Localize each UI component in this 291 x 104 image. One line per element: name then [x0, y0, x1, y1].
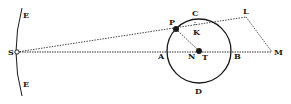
label-L: L: [243, 6, 249, 16]
label-A: A: [157, 51, 165, 61]
label-P: P: [169, 17, 175, 27]
label-S: S: [8, 47, 14, 57]
body-S: [15, 50, 19, 54]
label-B: B: [234, 51, 241, 61]
diagram: E E S P C K L A N T B M D: [0, 0, 291, 104]
line-LM: [246, 17, 272, 52]
label-E-bottom: E: [23, 79, 29, 89]
label-K: K: [193, 27, 201, 37]
label-T: T: [202, 52, 208, 62]
label-N: N: [188, 51, 195, 61]
diagram-canvas: E E S P C K L A N T B M D: [0, 0, 291, 104]
label-E-top: E: [23, 10, 29, 20]
label-C: C: [192, 8, 198, 18]
label-M: M: [274, 47, 283, 57]
label-D: D: [195, 86, 202, 96]
